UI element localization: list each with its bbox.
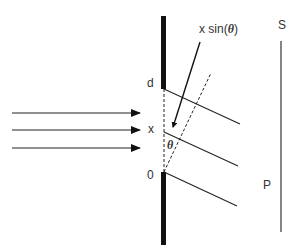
label-theta: θ bbox=[167, 138, 174, 152]
path-difference-pointer bbox=[173, 42, 200, 127]
label-x: x bbox=[148, 122, 154, 136]
label-screen-s: S bbox=[278, 18, 286, 32]
normal-dashed-line bbox=[164, 73, 211, 172]
label-zero: 0 bbox=[147, 168, 154, 182]
barrier-top bbox=[161, 16, 166, 89]
diffraction-diagram: d x 0 x sin(θ) θ S P bbox=[0, 0, 296, 252]
incident-rays bbox=[12, 113, 140, 148]
label-point-p: P bbox=[263, 178, 271, 192]
barrier-bottom bbox=[161, 172, 166, 245]
label-path-difference: x sin(θ) bbox=[199, 22, 238, 36]
path-difference-suffix: ) bbox=[234, 22, 238, 36]
diffracted-ray-bottom bbox=[164, 172, 237, 206]
label-d: d bbox=[147, 76, 154, 90]
path-difference-prefix: x sin( bbox=[199, 22, 228, 36]
